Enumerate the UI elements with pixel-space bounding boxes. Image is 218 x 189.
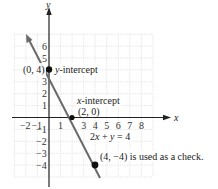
x-intercept-label: x-intercept (76, 95, 120, 106)
y-tick-label: −2 (36, 136, 47, 147)
x-tick-label: 3 (81, 120, 86, 131)
x-tick-label: 7 (127, 120, 132, 131)
x-tick-label: 6 (116, 120, 121, 131)
y-tick-label: 6 (42, 41, 47, 52)
y-tick-label: 3 (42, 76, 47, 87)
point-x-intercept (69, 115, 74, 120)
y-tick-label: 2 (42, 88, 47, 99)
point-y-intercept (46, 66, 52, 72)
y-tick-label: 1 (42, 100, 47, 111)
y-tick-label: 5 (42, 53, 47, 64)
y-tick-label: −1 (36, 124, 47, 135)
x-tick-label: 5 (104, 120, 109, 131)
x-tick-label: −2 (20, 120, 31, 131)
x-axis-arrow-icon (163, 115, 171, 120)
y-intercept-point-label: (0, 4) (23, 64, 45, 76)
line-graph: x y −2−1134567865321−1−2−3−4 (0, 4) y-in… (0, 0, 218, 189)
x-tick-label: 8 (139, 120, 144, 131)
x-axis-label: x (173, 112, 179, 123)
y-tick-label: −4 (36, 160, 47, 171)
point-check (92, 162, 99, 169)
y-intercept-label: y-intercept (54, 64, 98, 75)
check-point-label: (4, −4) is used as a check. (100, 151, 203, 163)
equation-label: 2x + y = 4 (90, 131, 130, 142)
x-tick-label: 4 (93, 120, 98, 131)
x-intercept-point-label: (2, 0) (78, 106, 100, 118)
y-axis-label: y (45, 0, 51, 10)
x-tick-label: 1 (58, 120, 63, 131)
y-tick-label: −3 (36, 148, 47, 159)
